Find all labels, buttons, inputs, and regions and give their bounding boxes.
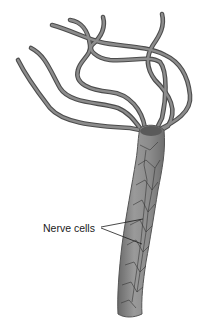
- nerve-cells-label: Nerve cells: [43, 223, 95, 234]
- tentacles: [18, 14, 190, 132]
- hydra-body: [118, 125, 165, 317]
- hydra-illustration: [0, 0, 213, 332]
